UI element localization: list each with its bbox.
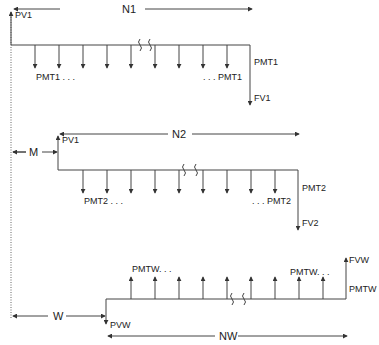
fv2-label: FV2	[302, 218, 319, 228]
pmtw-final-label: PMTW	[349, 284, 377, 294]
pv1-label: PV1	[15, 10, 32, 20]
n1-label: N1	[122, 3, 136, 15]
timeline-2: M N2 PV1 PMT2 . . . . . . PMT2 PMT2 FV2	[13, 128, 326, 230]
w-label: W	[53, 310, 64, 322]
pvw-label: PVW	[110, 320, 131, 330]
pmt1-end-label: . . . PMT1	[203, 72, 242, 82]
fv1-label: FV1	[254, 93, 271, 103]
cash-flow-diagram: N1 PV1 PMT1 . . . . . . PMT1 PMT1 FV1 M …	[0, 0, 379, 345]
pmt1-start-label: PMT1 . . .	[36, 72, 75, 82]
pmtw-end-label: PMTW. . .	[290, 267, 330, 277]
m-label: M	[29, 146, 38, 158]
pmt1-final-label: PMT1	[254, 57, 278, 67]
n2-label: N2	[172, 128, 186, 140]
nw-label: NW	[219, 330, 238, 342]
pmt2-end-label: . . . PMT2	[252, 196, 291, 206]
pmt2-start-label: PMT2 . . .	[84, 196, 123, 206]
pmt2-final-label: PMT2	[302, 183, 326, 193]
fvw-label: FVW	[349, 255, 370, 265]
timeline-1: N1 PV1 PMT1 . . . . . . PMT1 PMT1 FV1	[11, 3, 278, 105]
timeline-w: W NW PVW PMTW. . . PMTW. . . FVW PMTW	[13, 255, 377, 342]
pv1-label-2: PV1	[62, 135, 79, 145]
pmtw-start-label: PMTW. . .	[132, 264, 172, 274]
